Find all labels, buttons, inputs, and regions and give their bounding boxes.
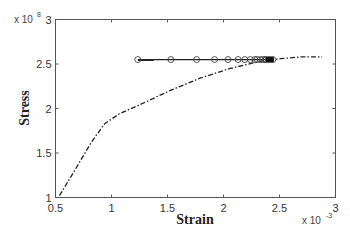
y-tick-label: 2.5 (36, 58, 51, 70)
dense-marker-cluster (266, 57, 274, 62)
y-tick-label: 3 (45, 14, 51, 26)
x-tick-label: 1.5 (160, 202, 175, 214)
y-multiplier-exponent: 8 (37, 11, 41, 18)
x-tick-label: 3 (332, 202, 338, 214)
x-tick-label: 1 (108, 202, 114, 214)
axes-box (56, 20, 336, 198)
y-tick-label: 1.5 (36, 147, 51, 159)
x-multiplier-exponent: -3 (326, 212, 332, 219)
x-tick-label: 2.5 (272, 202, 287, 214)
x-multiplier: x 10 (302, 215, 321, 226)
x-axis-title: Strain (176, 212, 214, 227)
plot-area: 0.511.522.53 11.522.53 (36, 14, 338, 214)
y-tick-label: 2 (45, 103, 51, 115)
y-tick-label: 1 (45, 192, 51, 204)
y-axis-title: Stress (17, 90, 32, 126)
stress-strain-chart: 0.511.522.53 11.522.53 Strain Stress x 1… (0, 0, 350, 241)
y-multiplier: x 10 (14, 14, 33, 25)
x-tick-label: 2 (220, 202, 226, 214)
